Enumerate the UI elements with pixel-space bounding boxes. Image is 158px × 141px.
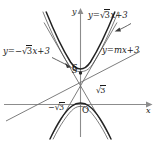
radicand: 3 (26, 45, 32, 56)
graph-canvas (0, 0, 158, 141)
minus-sign: − (48, 103, 55, 112)
radicand: 3 (59, 102, 65, 112)
math-figure: y x O 6 3 √3 −√3 y=√3x+3 y=−√3x+3 y=mx+3 (0, 0, 158, 141)
equation-lhs: y=− (3, 46, 22, 56)
origin-label: O (82, 106, 89, 115)
radicand: 3 (100, 85, 106, 95)
annotation-line-variable-slope: y=mx+3 (102, 46, 139, 55)
radicand: 3 (104, 9, 110, 20)
x-tick-negative-root3-label: −√3 (48, 104, 65, 112)
equation-tail: x+3 (110, 10, 127, 20)
x-tick-positive-root3-label: √3 (96, 87, 106, 95)
intersection-point (79, 71, 82, 74)
y-tick-3-label: 3 (72, 66, 78, 75)
equation-lhs: y= (88, 10, 100, 20)
equation-tail: x+3 (32, 46, 49, 56)
y-axis-label: y (72, 8, 77, 16)
annotation-line-positive-root3: y=√3x+3 (88, 11, 128, 20)
variable-line (6, 52, 140, 122)
annotation-line-negative-root3: y=−√3x+3 (3, 47, 50, 56)
x-axis-label: x (146, 107, 151, 115)
leader-arrow-positive (115, 24, 131, 32)
